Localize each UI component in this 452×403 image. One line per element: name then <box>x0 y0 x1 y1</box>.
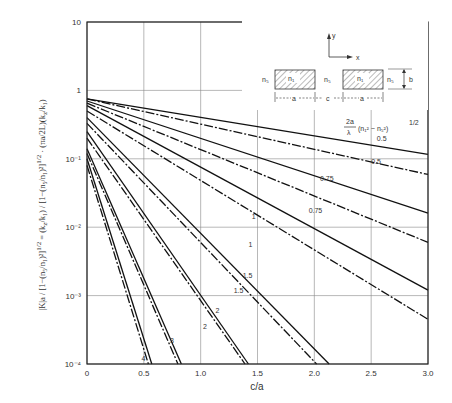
x-tick-labels: 00.51.01.52.02.53.0 <box>85 369 434 378</box>
curve-1_5-dashdot <box>87 123 317 364</box>
curve-label: 4 <box>142 355 146 362</box>
x-tick-label: 2.5 <box>366 369 378 378</box>
height-label: b <box>409 76 413 83</box>
curve-label: 1 <box>248 241 252 248</box>
x-tick-label: 0.5 <box>138 369 150 378</box>
gap-label: c <box>326 95 330 102</box>
curve-label: 3 <box>170 337 174 344</box>
curve-label: 0.5 <box>377 135 387 142</box>
curve-4-solid <box>87 159 152 364</box>
x-tick-label: 1.0 <box>195 369 207 378</box>
cladding-mid-label: n₅ <box>324 76 331 83</box>
x-tick-label: 2.0 <box>309 369 321 378</box>
legend-exp: 1/2 <box>409 119 419 126</box>
curve-label: 1 <box>252 213 256 220</box>
curve-label: 1.5 <box>234 287 244 294</box>
core-right-label: n₁ <box>357 75 364 82</box>
inset-y-label: y <box>332 32 336 40</box>
y-axis-label: |K|a / [1−(n₅/n₁)²]1/2 = (kz/k₁) / [1−(n… <box>4 60 74 350</box>
legend-title: 2a λ (n₁² − n₅²) 1/2 <box>344 118 419 136</box>
legend-expr: (n₁² − n₅²) <box>358 125 388 133</box>
x-axis-label: c/a <box>250 381 264 392</box>
curve-label: 1.5 <box>243 272 253 279</box>
y-tick-label: 1 <box>77 86 82 95</box>
x-tick-label: 1.5 <box>252 369 264 378</box>
legend-fraction-den: λ <box>347 129 351 136</box>
inset-x-label: x <box>356 54 360 61</box>
width-label-right: a <box>360 95 364 102</box>
curve-labels: 0.50.50.750.75111.51.52234 <box>142 135 387 362</box>
curve-label: 0.5 <box>371 158 381 165</box>
curve-label: 0.75 <box>320 175 334 182</box>
curve-label: 2 <box>203 323 207 330</box>
core-left-label: n₁ <box>288 75 295 82</box>
curve-3-dashdot <box>87 153 178 364</box>
y-tick-label: 10⁻⁴ <box>65 360 82 369</box>
legend-fraction-num: 2a <box>346 118 354 125</box>
waveguide-inset: y x n₁ n₁ n₅ n₅ n₅ b <box>242 20 428 110</box>
x-tick-label: 3.0 <box>422 369 434 378</box>
curve-label: 0.75 <box>309 207 323 214</box>
x-tick-label: 0 <box>85 369 90 378</box>
y-axis-label-text: |K|a / [1−(n₅/n₁)²]1/2 = (kz/k₁) / [1−(n… <box>35 99 50 310</box>
cladding-left-label: n₅ <box>262 76 269 83</box>
y-tick-label: 10 <box>72 18 81 27</box>
curve-4-dashdot <box>87 165 148 364</box>
curve-2-solid <box>87 132 248 364</box>
cladding-right-label: n₅ <box>387 76 394 83</box>
curve-1_5-solid <box>87 118 329 364</box>
width-label-left: a <box>292 95 296 102</box>
curve-label: 2 <box>215 307 219 314</box>
curve-3-solid <box>87 149 181 364</box>
